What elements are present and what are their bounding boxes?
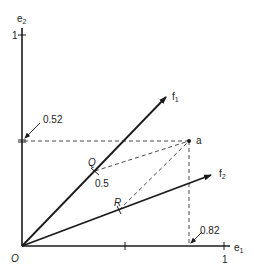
q-value-label: 0.5 xyxy=(95,179,109,189)
y-value-label: 0.52 xyxy=(43,115,62,125)
dashed-r-to-a xyxy=(119,141,189,210)
f1-label: f1 xyxy=(172,92,179,102)
e2-tick-1-label: 1 xyxy=(12,31,18,41)
e2-axis-label: e2 xyxy=(17,14,26,24)
origin-label: O xyxy=(11,254,19,264)
point-a xyxy=(187,139,191,143)
point-a-label: a xyxy=(196,136,202,146)
q-label: Q xyxy=(88,158,96,168)
e1-axis-label: e1 xyxy=(234,243,243,253)
leader-052 xyxy=(25,123,40,138)
r-label: R xyxy=(114,198,121,208)
x-value-label: 0.82 xyxy=(200,226,219,236)
f2-label: f2 xyxy=(219,169,226,179)
e1-tick-1-label: 1 xyxy=(222,255,228,265)
vector-f2 xyxy=(22,175,211,246)
